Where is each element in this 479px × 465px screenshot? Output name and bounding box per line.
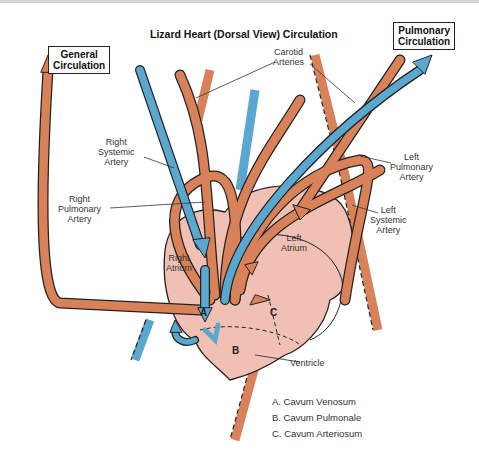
label-left-atrium: Left Atrium xyxy=(281,233,307,253)
diagram-title: Lizard Heart (Dorsal View) Circulation xyxy=(150,28,338,40)
label-ventricle: Ventricle xyxy=(290,358,325,368)
box-line: Pulmonary xyxy=(398,25,450,36)
label-left-systemic-artery: Left Systemic Artery xyxy=(370,205,407,235)
box-line: Circulation xyxy=(398,36,450,47)
legend-item: C. Cavum Arteriosum xyxy=(272,426,362,442)
chamber-b: B xyxy=(232,345,239,356)
label-line: Left xyxy=(390,152,433,162)
label-line: Left xyxy=(370,205,407,215)
label-line: Right xyxy=(166,253,192,263)
chamber-a: A xyxy=(200,307,207,318)
label-line: Artery xyxy=(98,157,135,167)
label-line: Systemic xyxy=(98,147,135,157)
label-line: Right xyxy=(58,194,101,204)
arteries xyxy=(41,55,400,310)
legend-item: A. Cavum Venosum xyxy=(272,394,362,410)
label-line: Pulmonary xyxy=(58,204,101,214)
label-line: Arteries xyxy=(273,57,304,67)
label-carotid-arteries: Carotid Arteries xyxy=(273,47,304,67)
label-right-atrium: Right Atrium xyxy=(166,253,192,273)
label-line: Pulmonary xyxy=(390,162,433,172)
label-line: Artery xyxy=(390,172,433,182)
general-circulation-box: General Circulation xyxy=(48,46,110,74)
label-line: Carotid xyxy=(273,47,304,57)
label-right-pulmonary-artery: Right Pulmonary Artery xyxy=(58,194,101,224)
label-left-pulmonary-artery: Left Pulmonary Artery xyxy=(390,152,433,182)
label-line: Atrium xyxy=(281,243,307,253)
chamber-legend: A. Cavum Venosum B. Cavum Pulmonale C. C… xyxy=(272,394,362,442)
box-line: General xyxy=(53,49,105,60)
box-line: Circulation xyxy=(53,60,105,71)
pulmonary-circulation-box: Pulmonary Circulation xyxy=(393,22,455,50)
label-line: Artery xyxy=(58,214,101,224)
label-line: Left xyxy=(281,233,307,243)
chamber-c: C xyxy=(270,307,277,318)
label-line: Atrium xyxy=(166,263,192,273)
label-right-systemic-artery: Right Systemic Artery xyxy=(98,137,135,167)
label-line: Artery xyxy=(370,225,407,235)
label-line: Systemic xyxy=(370,215,407,225)
label-line: Right xyxy=(98,137,135,147)
legend-item: B. Cavum Pulmonale xyxy=(272,410,362,426)
